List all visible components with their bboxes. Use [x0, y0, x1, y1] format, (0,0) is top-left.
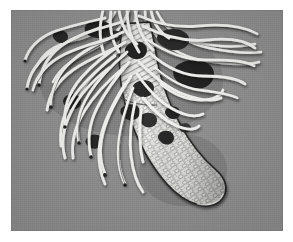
illustration-canvas — [11, 10, 283, 231]
illustration-panel — [11, 10, 283, 231]
figure-root: Black and white scientific illustration … — [0, 0, 293, 242]
